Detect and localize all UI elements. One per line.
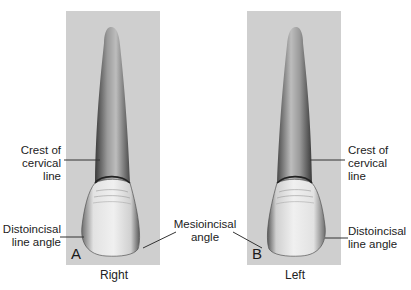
label-distoincisal-line-angle-a: Distoincisal line angle xyxy=(0,223,61,249)
label-line: Distoincisal xyxy=(348,225,411,238)
label-distoincisal-line-angle-b: Distoincisal line angle xyxy=(348,225,411,251)
panel-a-right-tooth: A xyxy=(66,11,160,265)
label-line: Mesioincisal xyxy=(172,218,238,231)
label-line: line xyxy=(348,170,411,183)
label-line: line angle xyxy=(348,238,411,251)
label-line: line xyxy=(0,170,61,183)
panel-b-left-tooth: B xyxy=(247,11,341,265)
label-mesioincisal-angle: Mesioincisal angle xyxy=(172,218,238,244)
label-crest-of-cervical-line-a: Crest of cervical line xyxy=(0,144,61,183)
tooth-illustration-left xyxy=(247,11,341,265)
label-crest-of-cervical-line-b: Crest of cervical line xyxy=(348,144,411,183)
label-line: Crest of xyxy=(0,144,61,157)
label-line: cervical xyxy=(348,157,411,170)
label-line: line angle xyxy=(0,236,61,249)
label-line: Distoincisal xyxy=(0,223,61,236)
caption-left: Left xyxy=(285,268,305,282)
caption-right: Right xyxy=(100,268,128,282)
tooth-illustration-right xyxy=(66,11,160,265)
label-line: angle xyxy=(172,231,238,244)
panel-letter-a: A xyxy=(71,245,81,262)
label-line: Crest of xyxy=(348,144,411,157)
label-line: cervical xyxy=(0,157,61,170)
panel-letter-b: B xyxy=(252,245,262,262)
